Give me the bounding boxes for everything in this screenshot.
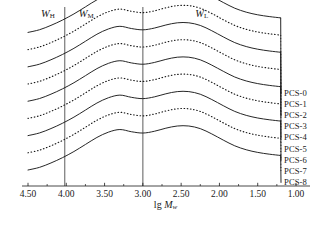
x-axis-title: lg Mw <box>154 200 177 211</box>
legend-label-pcs-4: PCS-4 <box>284 133 307 142</box>
x-tick-label-2-00: 2.00 <box>211 190 228 200</box>
x-tick-label-4-50: 4.50 <box>20 190 37 200</box>
region-label-w-m: WM <box>79 9 94 20</box>
region-label-subscript: L <box>204 12 208 20</box>
curve-pcs-6 <box>28 91 281 135</box>
curve-pcs-4 <box>28 57 281 101</box>
region-label-symbol: W <box>41 8 50 19</box>
legend-label-pcs-8: PCS-8 <box>284 178 307 187</box>
curve-pcs-0 <box>28 0 281 32</box>
divider-lines <box>65 7 143 186</box>
region-label-subscript: M <box>87 12 93 20</box>
legend-label-pcs-5: PCS-5 <box>284 145 307 154</box>
curve-pcs-1 <box>28 5 281 49</box>
x-tick-label-3-00: 3.00 <box>135 190 152 200</box>
legend-label-pcs-2: PCS-2 <box>284 111 307 120</box>
curve-pcs-3 <box>28 40 281 84</box>
x-tick-label-1-50: 1.50 <box>249 190 266 200</box>
region-label-w-l: WL <box>195 9 208 20</box>
region-label-subscript: H <box>50 12 55 20</box>
x-tick-label-2-50: 2.50 <box>173 190 190 200</box>
legend-label-pcs-7: PCS-7 <box>284 167 307 176</box>
chart-plot-area <box>0 0 331 227</box>
curve-pcs-5 <box>28 74 281 118</box>
x-tick-label-1-00: 1.00 <box>288 190 305 200</box>
curve-pcs-8 <box>28 126 281 170</box>
legend-label-pcs-1: PCS-1 <box>284 100 307 109</box>
x-tick-label-3-50: 3.50 <box>96 190 113 200</box>
region-label-symbol: W <box>79 8 88 19</box>
region-label-symbol: W <box>195 8 204 19</box>
legend-label-pcs-0: PCS-0 <box>284 89 307 98</box>
curve-pcs-2 <box>28 22 281 66</box>
curve-lines <box>28 0 281 170</box>
legend-label-pcs-3: PCS-3 <box>284 122 307 131</box>
x-tick-label-4-00: 4.00 <box>58 190 75 200</box>
chart-figure: WHWMWL 4.504.003.503.002.502.001.501.00 … <box>0 0 331 227</box>
x-axis-title-subscript: w <box>172 203 177 211</box>
legend-label-pcs-6: PCS-6 <box>284 156 307 165</box>
curve-pcs-7 <box>28 108 281 152</box>
region-label-w-h: WH <box>41 9 55 20</box>
x-axis-title-symbol: M <box>164 199 172 210</box>
x-axis-title-prefix: lg <box>154 199 164 210</box>
